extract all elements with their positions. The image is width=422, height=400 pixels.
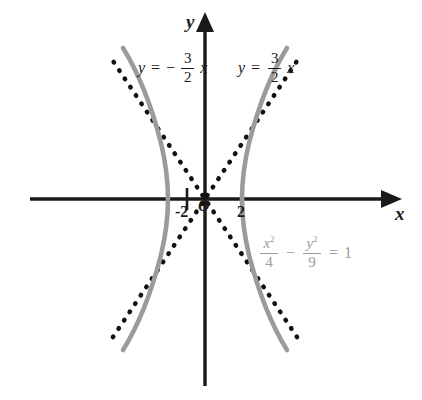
x-axis (30, 190, 402, 208)
plot-canvas (0, 0, 422, 400)
equation-equals-sign: = (327, 244, 340, 261)
right-asymptote-numerator: 3 (269, 51, 281, 67)
origin-label: O (198, 198, 210, 214)
equation-right-hand-side: 1 (344, 244, 352, 261)
right-asymptote-denominator: 2 (269, 70, 281, 86)
right-asymptote-fraction: 3 2 (268, 51, 281, 86)
right-asymptote-lhs: y (238, 59, 245, 76)
right-asymptote-variable: x (287, 59, 294, 76)
left-asymptote-variable: x (200, 59, 207, 76)
equation-term2-numerator: y2 (304, 235, 319, 252)
equation-term2-denominator: 9 (306, 255, 318, 271)
equation-term1-denominator: 4 (263, 255, 275, 271)
equation-term1-numerator: x2 (261, 235, 276, 252)
hyperbola-equation-label: x2 4 − y2 9 = 1 (258, 236, 352, 272)
equation-term2-exponent: 2 (313, 234, 318, 244)
right-asymptote-equals: = (249, 59, 262, 76)
equation-term2-fraction: y2 9 (303, 235, 321, 271)
left-asymptote-fraction: 3 2 (181, 51, 194, 86)
left-asymptote-lhs: y (138, 59, 145, 76)
left-asymptote-label: y = − 3 2 x (138, 52, 207, 87)
left-asymptote-denominator: 2 (182, 70, 194, 86)
equation-minus-sign: − (284, 244, 297, 261)
y-axis-label: y (186, 12, 194, 31)
y-axis-arrowhead (196, 12, 214, 32)
equation-term1-fraction: x2 4 (260, 235, 278, 271)
left-asymptote-numerator: 3 (182, 51, 194, 67)
right-asymptote-label: y = 3 2 x (238, 52, 294, 87)
x-tick-label-positive-2: 2 (237, 204, 245, 220)
hyperbola-figure: y x O -2 2 y = − 3 2 x y = 3 2 x x2 4 (0, 0, 422, 400)
x-tick-label-negative-2: -2 (175, 204, 188, 220)
left-asymptote-equals: = (149, 59, 162, 76)
equation-term1-exponent: 2 (270, 234, 275, 244)
left-asymptote-sign: − (166, 59, 175, 76)
x-axis-label: x (395, 204, 405, 223)
